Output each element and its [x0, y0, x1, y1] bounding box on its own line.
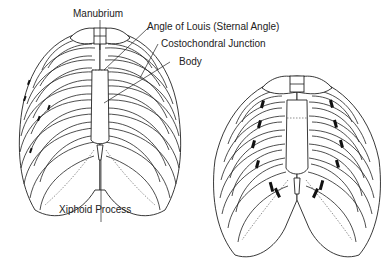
label-costochondral-junction: Costochondral Junction: [161, 39, 266, 49]
label-body: Body: [179, 57, 202, 67]
label-manubrium: Manubrium: [73, 9, 123, 19]
label-angle-of-louis: Angle of Louis (Sternal Angle): [147, 22, 279, 32]
left-rib-cage: [19, 28, 180, 216]
right-rib-cage: [214, 76, 381, 257]
label-xiphoid-process: Xiphoid Process: [59, 205, 131, 215]
